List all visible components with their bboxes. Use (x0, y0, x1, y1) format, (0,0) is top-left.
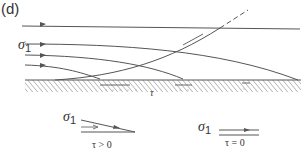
legend-tau-zero (219, 130, 259, 135)
stress-trajectories (22, 10, 300, 80)
diagram-canvas (0, 0, 301, 157)
legend-tau-positive (81, 120, 135, 132)
hatched-substrate (25, 80, 301, 92)
arrow-icons (40, 22, 46, 68)
arrow-icon (244, 128, 250, 132)
